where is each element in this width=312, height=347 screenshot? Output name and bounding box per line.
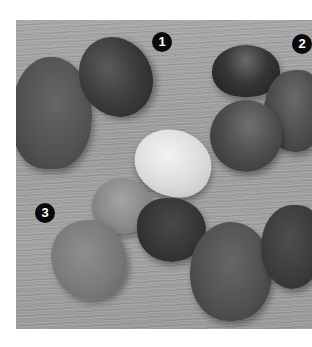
large-bottom-stone [190, 222, 272, 321]
pebbles-photo: 1 2 3 [16, 20, 312, 329]
callout-badge-2: 2 [292, 34, 312, 54]
callout-badge-3: 3 [35, 203, 55, 223]
callout-badge-1: 1 [152, 32, 172, 52]
medium-stone-right [210, 100, 282, 172]
